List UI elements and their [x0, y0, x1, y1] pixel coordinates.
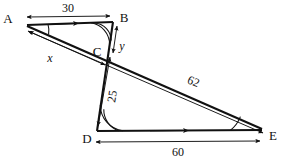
- segment-ae: [27, 26, 262, 129]
- dimension-line-ab: [27, 16, 110, 17]
- dimension-line-ae: [29, 32, 263, 134]
- measure-label-ac: x: [46, 51, 53, 65]
- angle-arc-b-outer: [91, 23, 110, 45]
- vertex-label-e: E: [269, 128, 277, 143]
- measure-label-ab: 30: [62, 1, 74, 15]
- vertex-label-d: D: [82, 131, 91, 146]
- geometry-canvas: A B C D E 30 y x 25 62 60: [0, 0, 285, 161]
- measure-label-de: 60: [172, 145, 184, 159]
- geometry-figure: A B C D E 30 y x 25 62 60: [0, 0, 285, 161]
- angle-arc-d-inner: [104, 109, 119, 131]
- dimension-line-de: [96, 141, 260, 142]
- angle-arc-a: [48, 24, 49, 34]
- vertex-label-c: C: [93, 44, 102, 59]
- vertex-label-a: A: [3, 11, 13, 26]
- dimension-line-bc: [113, 26, 117, 53]
- measure-label-bc: y: [118, 39, 125, 53]
- vertex-label-b: B: [120, 10, 129, 25]
- measure-label-cd: 25: [104, 89, 120, 103]
- measure-label-ae: 62: [185, 73, 202, 91]
